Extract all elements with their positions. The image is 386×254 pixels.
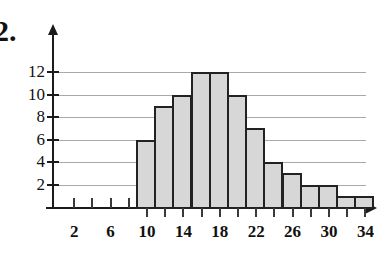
x-tick-14 [182, 208, 184, 217]
x-tick-22 [255, 208, 257, 217]
x-tick-label-6: 6 [106, 222, 115, 242]
x-tick-label-18: 18 [211, 222, 228, 242]
x-tick-2 [73, 198, 75, 208]
bar [245, 128, 265, 209]
bar [263, 162, 283, 209]
problem-number-label: 2. [0, 14, 17, 48]
x-tick-label-30: 30 [321, 222, 338, 242]
y-tick-10 [47, 94, 59, 96]
x-tick-10 [146, 208, 148, 217]
y-tick-6 [47, 139, 59, 141]
x-tick-label-26: 26 [284, 222, 301, 242]
x-tick-18 [219, 208, 221, 217]
x-tick-26 [292, 208, 294, 217]
x-tick-label-14: 14 [175, 222, 192, 242]
bar [336, 196, 356, 209]
y-tick-4 [47, 161, 59, 163]
cropped-header-text [70, 0, 300, 4]
x-tick-4 [91, 198, 93, 208]
plot-area: 24681012 2610141822263034 [52, 26, 372, 208]
bar [136, 140, 156, 210]
x-tick-32 [346, 208, 348, 217]
y-tick-label-2: 2 [37, 175, 46, 195]
x-tick-label-2: 2 [70, 222, 79, 242]
x-tick-30 [328, 208, 330, 217]
x-tick-label-22: 22 [248, 222, 265, 242]
x-tick-label-34: 34 [357, 222, 374, 242]
bar [227, 95, 247, 210]
bar [318, 185, 338, 210]
y-tick-12 [47, 71, 59, 73]
y-tick-2 [47, 184, 59, 186]
bar [282, 173, 302, 209]
bar [191, 72, 211, 209]
y-axis-arrow-icon [48, 24, 58, 35]
y-tick-label-6: 6 [37, 130, 46, 150]
bar [209, 72, 229, 209]
x-tick-20 [237, 208, 239, 217]
x-tick-12 [164, 208, 166, 217]
bar [154, 106, 174, 209]
bar [300, 185, 320, 210]
bar [172, 95, 192, 210]
histogram-figure: 2. 24681012 2610141822263034 [0, 0, 386, 254]
x-tick-28 [310, 208, 312, 217]
x-tick-6 [110, 198, 112, 208]
y-axis-line [52, 34, 54, 208]
y-tick-8 [47, 116, 59, 118]
x-tick-34 [364, 208, 366, 217]
y-tick-label-4: 4 [37, 152, 46, 172]
x-tick-label-10: 10 [139, 222, 156, 242]
y-tick-label-12: 12 [28, 62, 45, 82]
y-tick-label-10: 10 [28, 85, 45, 105]
x-tick-8 [128, 198, 130, 208]
y-tick-label-8: 8 [37, 107, 46, 127]
bar [354, 196, 374, 209]
x-tick-24 [273, 208, 275, 217]
x-tick-16 [201, 208, 203, 217]
